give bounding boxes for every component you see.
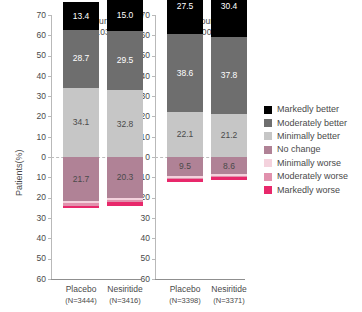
legend-item-markedly-better[interactable]: Markedly better bbox=[264, 103, 348, 116]
group-name: Nesiritide bbox=[98, 284, 152, 295]
y-axis-spine-2 bbox=[155, 15, 156, 279]
segment-markedly-worse bbox=[107, 202, 143, 206]
group-label-nesiritide: Nesiritide(N=3371) bbox=[202, 284, 256, 306]
segment-value: 32.8 bbox=[107, 120, 143, 129]
segment-value: 8.6 bbox=[211, 162, 247, 171]
legend-item-label: Minimally worse bbox=[277, 159, 341, 168]
group-name: Nesiritide bbox=[202, 284, 256, 295]
segment-markedly-worse bbox=[211, 177, 247, 180]
chart-figure: 6 HoursP=0.0324 HoursP=0.007706050403020… bbox=[0, 0, 362, 312]
legend-swatch-icon bbox=[264, 173, 272, 181]
group-label-nesiritide: Nesiritide(N=3416) bbox=[98, 284, 152, 306]
legend-item-label: Markedly better bbox=[277, 105, 339, 114]
segment-value: 15.0 bbox=[107, 11, 143, 20]
y-axis-tick-label: 30 bbox=[27, 214, 46, 223]
segment-value: 20.3 bbox=[107, 173, 143, 182]
legend-item-label: Moderately better bbox=[277, 119, 347, 128]
y-axis-tick bbox=[152, 56, 155, 57]
y-axis-tick bbox=[152, 76, 155, 77]
y-axis-tick bbox=[48, 137, 51, 138]
y-axis-tick bbox=[152, 198, 155, 199]
y-axis-tick bbox=[152, 259, 155, 260]
y-axis-tick-label: 0 bbox=[27, 153, 46, 162]
legend-item-label: Moderately worse bbox=[277, 172, 348, 181]
legend-swatch-icon bbox=[264, 186, 272, 194]
segment-value: 29.5 bbox=[107, 56, 143, 65]
y-axis-tick bbox=[152, 35, 155, 36]
y-axis-tick-label: 20 bbox=[27, 193, 46, 202]
legend-item-minimally-better[interactable]: Minimally better bbox=[264, 130, 348, 143]
y-axis-tick bbox=[152, 218, 155, 219]
y-axis-tick-label: 20 bbox=[27, 112, 46, 121]
legend-item-moderately-worse[interactable]: Moderately worse bbox=[264, 170, 348, 183]
y-axis-tick-label: 10 bbox=[27, 173, 46, 182]
legend-swatch-icon bbox=[264, 159, 272, 167]
legend-swatch-icon bbox=[264, 119, 272, 127]
y-axis-tick bbox=[48, 218, 51, 219]
y-axis-tick bbox=[48, 116, 51, 117]
y-axis-tick bbox=[152, 116, 155, 117]
legend-item-minimally-worse[interactable]: Minimally worse bbox=[264, 157, 348, 170]
y-axis-tick-label: 70 bbox=[27, 11, 46, 20]
y-axis-tick bbox=[152, 177, 155, 178]
y-axis-tick bbox=[48, 56, 51, 57]
y-axis-tick bbox=[48, 198, 51, 199]
y-axis-tick bbox=[48, 15, 51, 16]
legend-item-label: Minimally better bbox=[277, 132, 340, 141]
y-axis-tick bbox=[152, 238, 155, 239]
segment-value: 27.5 bbox=[167, 2, 203, 11]
y-axis-tick-label: 50 bbox=[27, 51, 46, 60]
bar-nesiritide-2: 21.237.830.48.6 bbox=[211, 0, 247, 312]
y-axis-tick-label: 60 bbox=[27, 275, 46, 284]
legend-swatch-icon bbox=[264, 132, 272, 140]
y-axis-tick-label: 40 bbox=[27, 234, 46, 243]
segment-value: 13.4 bbox=[63, 12, 99, 21]
segment-value: 22.1 bbox=[167, 130, 203, 139]
y-axis-tick-label: 50 bbox=[27, 254, 46, 263]
segment-value: 38.6 bbox=[167, 69, 203, 78]
legend-item-moderately-better[interactable]: Moderately better bbox=[264, 116, 348, 129]
group-n: (N=3416) bbox=[98, 295, 152, 306]
segment-value: 21.2 bbox=[211, 131, 247, 140]
segment-value: 21.7 bbox=[63, 175, 99, 184]
segment-value: 28.7 bbox=[63, 54, 99, 63]
legend-item-no-change[interactable]: No change bbox=[264, 143, 348, 156]
segment-value: 34.1 bbox=[63, 118, 99, 127]
y-axis-spine-1 bbox=[51, 15, 52, 279]
bar-placebo-1: 34.128.713.421.7 bbox=[63, 0, 99, 312]
y-axis-tick bbox=[48, 76, 51, 77]
bar-placebo-2: 22.138.627.59.5 bbox=[167, 0, 203, 312]
segment-markedly-worse bbox=[167, 179, 203, 182]
y-axis-tick-label: 40 bbox=[27, 72, 46, 81]
y-axis-tick bbox=[48, 238, 51, 239]
legend: Markedly betterModerately betterMinimall… bbox=[264, 103, 348, 197]
segment-value: 9.5 bbox=[167, 162, 203, 171]
y-axis-tick bbox=[152, 96, 155, 97]
segment-markedly-worse bbox=[63, 206, 99, 209]
y-axis-tick bbox=[48, 259, 51, 260]
legend-item-label: No change bbox=[277, 145, 321, 154]
y-axis-tick bbox=[48, 35, 51, 36]
y-axis-tick bbox=[152, 137, 155, 138]
y-axis-tick-label: 10 bbox=[27, 133, 46, 142]
legend-item-label: Markedly worse bbox=[277, 186, 340, 195]
y-axis-tick bbox=[48, 96, 51, 97]
legend-swatch-icon bbox=[264, 106, 272, 114]
y-axis-tick bbox=[48, 177, 51, 178]
segment-value: 37.8 bbox=[211, 71, 247, 80]
y-axis-tick-label: 60 bbox=[27, 31, 46, 40]
segment-value: 30.4 bbox=[211, 2, 247, 11]
y-axis-tick bbox=[152, 15, 155, 16]
group-n: (N=3371) bbox=[202, 295, 256, 306]
y-axis-title: Patients(%) bbox=[14, 149, 24, 196]
bar-nesiritide-1: 32.829.515.020.3 bbox=[107, 0, 143, 312]
legend-swatch-icon bbox=[264, 146, 272, 154]
y-axis-tick-label: 30 bbox=[27, 92, 46, 101]
legend-item-markedly-worse[interactable]: Markedly worse bbox=[264, 183, 348, 196]
